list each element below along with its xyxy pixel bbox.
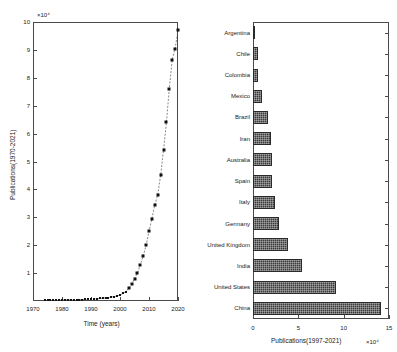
line-data-point: [150, 217, 153, 220]
line-data-point: [70, 299, 72, 301]
line-data-point: [174, 47, 177, 50]
line-data-point: [133, 277, 136, 280]
line-data-point: [84, 298, 86, 300]
line-data-point: [159, 174, 162, 177]
line-data-point: [136, 272, 139, 275]
line-data-point: [55, 299, 57, 301]
line-data-point: [162, 149, 165, 152]
line-data-point: [47, 299, 49, 301]
line-data-point: [122, 292, 124, 294]
bar-item: [253, 259, 302, 272]
bar-category-label: Mexico: [181, 93, 250, 99]
bar-item: [253, 217, 279, 230]
line-data-point: [139, 263, 142, 266]
line-data-point: [145, 244, 148, 247]
line-data-point: [125, 291, 127, 293]
bar-y-tick: [385, 245, 389, 246]
line-data-point: [116, 295, 118, 297]
line-data-point: [110, 296, 112, 298]
bar-x-exponent: ×10⁴: [366, 339, 379, 345]
line-data-point: [73, 299, 75, 301]
line-data-point: [64, 299, 66, 301]
bar-category-label: Iran: [181, 136, 250, 142]
line-data-point: [113, 296, 115, 298]
line-data-point: [165, 121, 168, 124]
bar-item: [253, 26, 255, 39]
line-data-point: [52, 299, 54, 301]
bar-category-label: Italy: [181, 199, 250, 205]
bar-category-label: United Kingdom: [181, 242, 250, 248]
bar-x-tick-label: 5: [289, 325, 307, 331]
bar-category-label: Colombia: [181, 72, 250, 78]
bar-item: [253, 153, 272, 166]
bar-y-tick: [385, 266, 389, 267]
figure-canvas: ×10⁴ Publications(1970-2021) Time (years…: [0, 0, 397, 352]
bar-item: [253, 175, 272, 188]
bar-item: [253, 132, 271, 145]
line-data-point: [107, 297, 109, 299]
bar-y-tick: [385, 117, 389, 118]
bar-y-tick: [385, 202, 389, 203]
bar-item: [253, 47, 258, 60]
bar-plot-frame: [253, 22, 389, 319]
line-data-point: [96, 298, 98, 300]
bar-x-tick: [389, 315, 390, 319]
line-data-point: [102, 297, 104, 299]
bar-y-tick: [385, 308, 389, 309]
bar-x-tick-label: 10: [335, 325, 353, 331]
line-data-point: [148, 230, 151, 233]
bar-y-tick: [385, 160, 389, 161]
line-data-point: [168, 87, 171, 90]
bar-category-label: Chile: [181, 51, 250, 57]
bar-x-tick-label: 15: [380, 325, 397, 331]
line-data-point: [90, 298, 92, 300]
line-data-point: [87, 298, 89, 300]
line-data-point: [171, 58, 174, 61]
bar-y-tick: [385, 33, 389, 34]
line-data-point: [44, 299, 46, 301]
line-data-point: [78, 299, 80, 301]
bar-y-tick: [385, 96, 389, 97]
bar-category-label: India: [181, 263, 250, 269]
line-data-point: [93, 298, 95, 300]
line-data-point: [177, 29, 180, 32]
line-data-point: [127, 287, 130, 290]
bar-x-tick-label: 0: [244, 325, 262, 331]
line-data-point: [81, 299, 83, 301]
line-data-point: [67, 299, 69, 301]
bar-category-label: Argentina: [181, 30, 250, 36]
bar-category-label: Spain: [181, 178, 250, 184]
bar-x-tick: [253, 315, 254, 319]
line-data-point: [156, 193, 159, 196]
bar-x-tick: [298, 315, 299, 319]
bar-item: [253, 90, 262, 103]
line-data-point: [99, 297, 101, 299]
line-data-point: [76, 299, 78, 301]
line-data-point: [61, 299, 63, 301]
bar-category-label: Germany: [181, 221, 250, 227]
line-data-point: [58, 299, 60, 301]
bar-category-label: Australia: [181, 157, 250, 163]
bar-y-tick: [385, 139, 389, 140]
bar-y-tick: [385, 75, 389, 76]
line-data-point: [119, 294, 121, 296]
line-data-point: [130, 283, 133, 286]
bar-category-label: China: [181, 305, 250, 311]
line-data-point: [153, 203, 156, 206]
bar-item: [253, 69, 258, 82]
bar-y-tick: [385, 287, 389, 288]
bar-x-axis-label: Publications(1997-2021): [271, 338, 341, 345]
bar-item: [253, 238, 288, 251]
bar-x-tick: [344, 315, 345, 319]
bar-item: [253, 302, 381, 315]
bar-category-label: Brazil: [181, 114, 250, 120]
bar-y-tick: [385, 224, 389, 225]
bar-category-label: United States: [181, 284, 250, 290]
line-data-point: [105, 297, 107, 299]
bar-item: [253, 111, 268, 124]
bar-y-tick: [385, 54, 389, 55]
bar-y-tick: [385, 181, 389, 182]
line-data-point: [49, 299, 51, 301]
bar-item: [253, 281, 336, 294]
line-data-point: [142, 255, 145, 258]
